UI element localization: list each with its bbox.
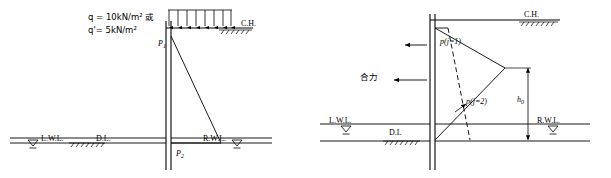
left-rwl-label: R.W.L.	[203, 135, 226, 143]
left-ch-label: C.H.	[241, 20, 256, 28]
left-p1-label: P1	[158, 40, 166, 49]
left-surcharge-label-1: q = 10kN/m² 或	[88, 13, 154, 22]
left-surcharge-label-2: q'= 5kN/m²	[88, 26, 137, 35]
left-lwl-label: L.W.L.	[41, 135, 64, 143]
left-surcharge-arrows	[168, 10, 232, 26]
left-dl-hatch	[69, 143, 105, 147]
right-dl-label: D.L	[389, 129, 402, 137]
left-ch-hatch	[219, 30, 252, 34]
right-rwl-symbol	[548, 126, 558, 132]
right-ch-hatch	[519, 22, 558, 26]
right-pressure-j1-label: p(j=1)	[440, 38, 461, 46]
right-dl-hatch	[383, 141, 420, 145]
right-rwl-label: R.W.L.	[537, 117, 560, 125]
left-dl-label: D.L.	[96, 135, 111, 143]
left-pressure-diagram	[171, 36, 221, 143]
engineering-diagram: q = 10kN/m² 或 q'= 5kN/m² C.H. P1 P2 L.W.…	[0, 0, 611, 178]
left-diagram-group	[10, 10, 272, 170]
right-lwl-label: L.W.L.	[329, 117, 352, 125]
right-lwl-symbol	[341, 126, 351, 132]
right-h0-sub: 0	[521, 99, 524, 105]
right-pressure-j2-label: p(j=2)	[466, 98, 487, 106]
left-p2-sub: 2	[181, 153, 184, 159]
right-h0-label: h0	[517, 96, 524, 105]
left-p1-sub: 1	[163, 43, 166, 49]
right-resultant-label: 合力	[360, 73, 378, 82]
right-ch-label: C.H.	[524, 11, 539, 19]
left-p2-label: P2	[176, 150, 184, 159]
